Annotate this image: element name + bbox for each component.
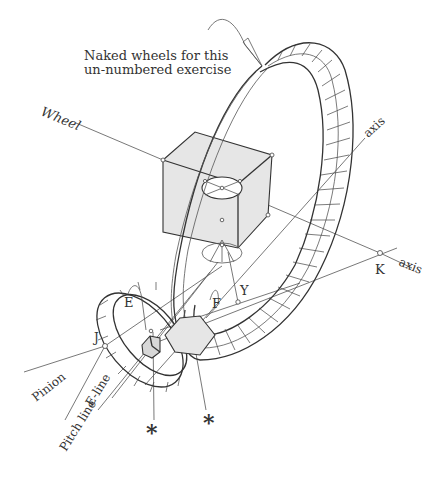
point-j-node — [103, 344, 108, 349]
asterisk-left: * — [146, 419, 158, 445]
callout-line1: Naked wheels for this — [84, 48, 228, 63]
point-e-label: E — [124, 295, 134, 310]
pinion-cubes — [142, 316, 215, 358]
point-y-label: Y — [239, 283, 249, 298]
wheel-label: Wheel — [39, 104, 83, 133]
asterisk-right: * — [203, 409, 215, 435]
point-k-label: K — [375, 262, 385, 277]
callout-line2: un-numbered exercise — [84, 62, 232, 77]
gear-diagram: Naked wheels for this un-numbered exerci… — [0, 0, 440, 480]
axis-lower-label: axis — [397, 255, 424, 277]
wheel-cube — [161, 132, 274, 248]
point-f-label: F — [212, 296, 221, 311]
point-y-node — [236, 300, 240, 304]
axis-upper-label: axis — [361, 114, 388, 140]
point-j-label: J — [92, 331, 99, 345]
pitch-line-label: Pitch line — [57, 397, 99, 453]
point-k-node — [378, 251, 383, 256]
pinion-label: Pinion — [29, 370, 68, 405]
